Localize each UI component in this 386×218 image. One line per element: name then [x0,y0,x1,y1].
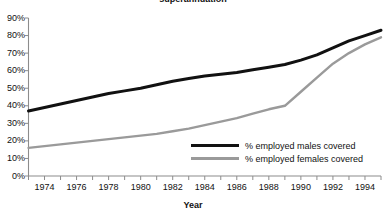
x-axis-tick-label: 1976 [62,182,92,192]
x-axis-tick-label: 1980 [126,182,156,192]
x-axis-tick-label: 1990 [286,182,316,192]
x-axis-tick-label: 1988 [254,182,284,192]
x-axis-tick-label: 1982 [158,182,188,192]
legend-label-males: % employed males covered [245,141,356,151]
x-axis-title: Year [0,200,386,210]
x-axis-tick-label: 1984 [190,182,220,192]
chart-legend: % employed males covered % employed fema… [191,139,381,165]
legend-item-males: % employed males covered [191,139,381,152]
chart-container: superannuation 0%10%20%30%40%50%60%70%80… [0,0,386,218]
x-axis-tick-label: 1986 [222,182,252,192]
legend-item-females: % employed females covered [191,152,381,165]
x-axis-tick-label: 1974 [30,182,60,192]
legend-swatch-males [191,144,239,147]
legend-label-females: % employed females covered [245,154,363,164]
x-axis-tick-label: 1994 [350,182,380,192]
x-axis-tick-label: 1992 [318,182,348,192]
x-axis-tick-labels: 1974197619781980198219841986198819901992… [0,0,386,218]
x-axis-tick-label: 1978 [94,182,124,192]
legend-swatch-females [191,157,239,160]
